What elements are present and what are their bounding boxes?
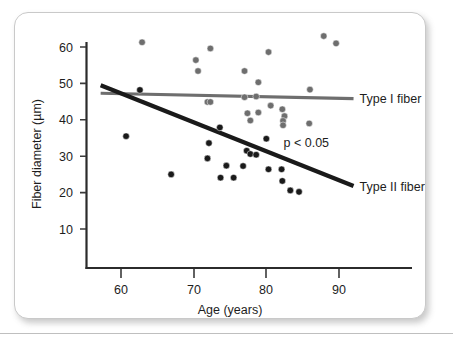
data-point	[247, 151, 254, 158]
annotation-p-value: p < 0.05	[284, 136, 330, 150]
y-tick-label-50: 50	[59, 77, 73, 91]
data-point	[306, 120, 313, 127]
y-tick-label-30: 30	[59, 150, 73, 164]
data-point	[279, 106, 286, 113]
data-point	[241, 68, 248, 75]
data-point	[255, 109, 262, 116]
x-tick-label-80: 80	[259, 283, 273, 297]
data-point	[280, 122, 287, 129]
data-point	[307, 86, 314, 93]
trendline-type-i-fiber	[101, 93, 354, 98]
x-tick-label-60: 60	[114, 283, 128, 297]
data-point	[240, 163, 247, 170]
x-tick-label-90: 90	[332, 283, 346, 297]
data-point	[207, 45, 214, 52]
data-point	[217, 174, 224, 181]
data-point	[241, 94, 248, 101]
series-label-type-i-fiber: Type I fiber	[360, 92, 422, 106]
data-point	[296, 189, 303, 196]
series-layer	[101, 33, 354, 195]
data-point	[168, 171, 175, 178]
data-point	[253, 151, 260, 158]
data-point	[255, 79, 262, 86]
data-point	[333, 40, 340, 47]
x-axis-ticks: 60 70 80 90	[114, 269, 346, 297]
series-label-type-ii-fiber: Type II fiber	[360, 180, 425, 194]
scatter-plot: 60 50 40 30 20 10 60 70 80 90 Age (years…	[15, 13, 426, 319]
data-point	[265, 49, 272, 56]
x-axis-title: Age (years)	[198, 303, 263, 317]
data-point	[247, 117, 254, 124]
data-point	[265, 166, 272, 173]
data-point	[263, 135, 270, 142]
y-tick-label-20: 20	[59, 186, 73, 200]
data-point	[139, 39, 146, 46]
y-tick-label-60: 60	[59, 41, 73, 55]
data-point	[279, 178, 286, 185]
y-axis-title: Fiber diameter (µm)	[30, 99, 44, 209]
data-point	[320, 33, 327, 40]
data-point	[195, 68, 202, 75]
figure-card: 60 50 40 30 20 10 60 70 80 90 Age (years…	[14, 12, 426, 319]
data-point	[217, 124, 224, 131]
data-point	[207, 99, 214, 106]
y-tick-label-10: 10	[59, 223, 73, 237]
data-point	[223, 162, 230, 169]
data-point	[244, 110, 251, 117]
annotation-layer: Type I fiberType II fiberp < 0.05	[284, 92, 425, 193]
data-point	[206, 140, 213, 147]
data-point	[287, 187, 294, 194]
data-point	[253, 93, 260, 100]
bottom-divider	[0, 333, 453, 334]
data-point	[267, 102, 274, 109]
y-axis-ticks: 60 50 40 30 20 10	[59, 41, 86, 237]
data-point	[230, 174, 237, 181]
data-point	[123, 133, 130, 140]
y-tick-label-40: 40	[59, 113, 73, 127]
data-point	[204, 155, 211, 162]
data-point	[137, 87, 144, 94]
data-point	[193, 57, 200, 64]
x-tick-label-70: 70	[187, 283, 201, 297]
data-point	[278, 166, 285, 173]
